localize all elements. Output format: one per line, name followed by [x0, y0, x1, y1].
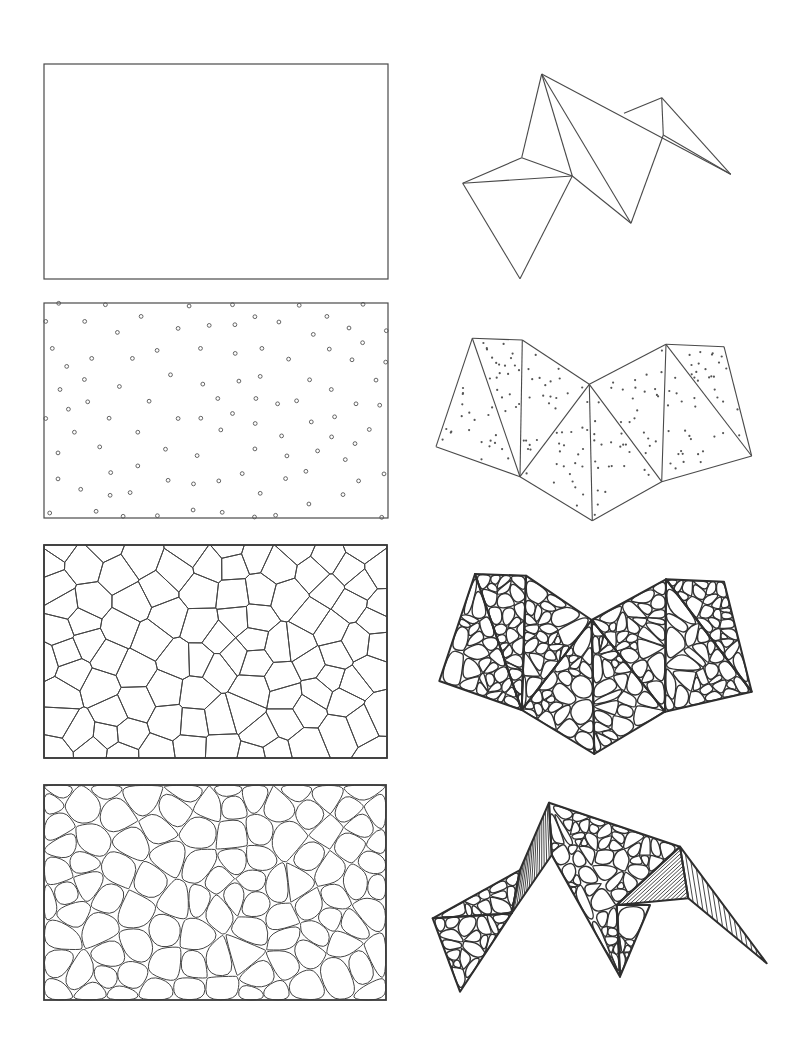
voronoi-cell [180, 608, 219, 643]
voronoi-cell [540, 601, 555, 611]
sample-point [576, 505, 578, 507]
rounded-cell [134, 861, 167, 897]
voronoi-cell [220, 638, 248, 676]
net-edge [542, 74, 731, 174]
voronoi-cell [147, 597, 188, 638]
sample-point [608, 465, 610, 467]
sample-point [329, 388, 333, 392]
rounded-cell [607, 908, 617, 928]
voronoi-cell [512, 638, 524, 655]
sample-point [504, 410, 506, 412]
sample-point [711, 354, 713, 356]
rounded-cell [442, 902, 465, 917]
sample-point [681, 400, 683, 402]
sample-point [515, 406, 517, 408]
rounded-cell [174, 978, 205, 1000]
sample-point [482, 342, 484, 344]
rounded-cell [458, 917, 476, 937]
voronoi-cell [602, 659, 614, 678]
voronoi-cell [139, 733, 176, 758]
sample-point [645, 452, 647, 454]
sample-point [450, 432, 452, 434]
rounded-cell [119, 929, 152, 962]
rounded-cell [231, 917, 267, 945]
rounded-cell [218, 849, 247, 875]
sample-point [518, 403, 520, 405]
sample-point [176, 327, 180, 331]
sample-point [655, 440, 657, 442]
sample-point [716, 396, 718, 398]
sample-point [646, 374, 648, 376]
voronoi-cell [616, 612, 627, 632]
sample-point [131, 357, 135, 361]
sample-point [499, 372, 501, 374]
sample-point [527, 448, 529, 450]
voronoi-cell [319, 641, 354, 670]
rounded-cell [579, 819, 589, 832]
voronoi-cell [331, 588, 367, 623]
sample-point [511, 353, 513, 355]
sample-point [83, 320, 87, 324]
sample-point [277, 320, 281, 324]
sample-point [636, 409, 638, 411]
voronoi-cell [344, 569, 377, 601]
sample-point [327, 347, 331, 351]
sample-point [660, 371, 662, 373]
voronoi-cell [356, 607, 387, 634]
sample-point [258, 375, 262, 379]
voronoi-cell [463, 658, 481, 678]
sample-point [496, 389, 498, 391]
net-edge [542, 74, 573, 176]
sample-point [648, 474, 650, 476]
sample-point [535, 354, 537, 356]
rounded-cell [149, 914, 180, 947]
rounded-cell [44, 785, 72, 798]
sample-point [550, 380, 552, 382]
voronoi-cell [239, 650, 273, 677]
voronoi-cell [538, 611, 551, 624]
net-edge [463, 183, 520, 278]
sample-point [496, 377, 498, 379]
sample-point [612, 382, 614, 384]
net-face-edge [522, 620, 595, 754]
hatch-line [653, 873, 685, 902]
sample-point [563, 465, 565, 467]
sample-point [556, 463, 558, 465]
sample-point [308, 378, 312, 382]
sample-point [725, 367, 727, 369]
sample-point [219, 428, 223, 432]
rounded-cell [181, 950, 207, 978]
sample-point [374, 378, 378, 382]
sample-point [536, 439, 538, 441]
voronoi-cell [367, 589, 388, 617]
voronoi-cell [647, 653, 665, 681]
sample-point [233, 352, 237, 356]
sample-point [574, 462, 576, 464]
voronoi-cell [468, 631, 484, 646]
voronoi-cell [364, 689, 387, 736]
sample-point [462, 387, 464, 389]
sample-point [667, 404, 669, 406]
voronoi-cell [696, 668, 708, 685]
sample-point [116, 331, 120, 335]
sample-point [567, 392, 569, 394]
sample-point [563, 444, 565, 446]
sample-point [128, 491, 132, 495]
net-edge [522, 158, 573, 176]
sample-point [136, 430, 140, 434]
voronoi-cell [189, 643, 215, 678]
sample-point [486, 348, 488, 350]
voronoi-cell [592, 636, 599, 653]
rounded-cell [628, 843, 641, 857]
sample-point [619, 446, 621, 448]
sample-point [647, 437, 649, 439]
net-edge [589, 384, 661, 481]
rounded-cell [573, 851, 586, 867]
voronoi-cell [525, 600, 535, 615]
voronoi-cell [117, 718, 150, 750]
sample-point [309, 420, 313, 424]
sample-point [693, 397, 695, 399]
sample-point [514, 364, 516, 366]
voronoi-cell [236, 628, 269, 651]
rounded-cell [487, 915, 498, 934]
